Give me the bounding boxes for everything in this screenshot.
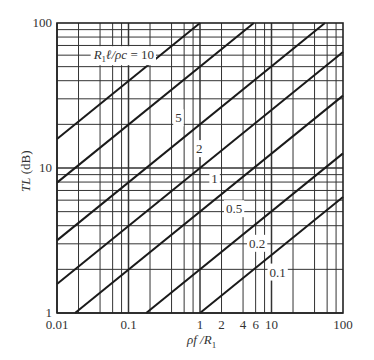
y-tick-label: 1: [46, 305, 53, 320]
chart: R1ℓ/ρc = 105210.50.20.1 0.010.1124610100…: [0, 0, 374, 360]
y-axis-title-main: TL: [18, 178, 33, 192]
y-axis-ticks: 110100: [33, 15, 53, 320]
line-label-1: 1: [211, 171, 218, 186]
line-label-0.2: 0.2: [249, 236, 265, 251]
x-tick-label: 10: [265, 317, 278, 332]
y-axis-title-unit: (dB): [18, 150, 33, 177]
data-line-0.5: [75, 96, 343, 313]
x-tick-label: 1: [197, 317, 204, 332]
x-tick-label: 2: [218, 317, 225, 332]
x-tick-label: 6: [252, 317, 259, 332]
y-tick-label: 100: [33, 15, 53, 30]
line-label-0.5: 0.5: [226, 201, 242, 216]
x-axis-title-sub: 1: [212, 340, 217, 350]
x-tick-label: 4: [240, 317, 247, 332]
y-tick-label: 10: [39, 160, 52, 175]
x-tick-label: 0.1: [120, 317, 136, 332]
line-label-5: 5: [175, 110, 182, 125]
x-axis-ticks: 0.010.1124610100: [46, 317, 353, 332]
line-label-2: 2: [196, 141, 203, 156]
x-axis-title: ρf /R1: [186, 332, 216, 350]
line-label-0.1: 0.1: [270, 265, 286, 280]
y-axis-title: TL (dB): [18, 150, 33, 192]
x-axis-title-main: ρf /R: [186, 332, 212, 347]
x-tick-label: 100: [333, 317, 353, 332]
data-line-0.2: [146, 153, 343, 313]
